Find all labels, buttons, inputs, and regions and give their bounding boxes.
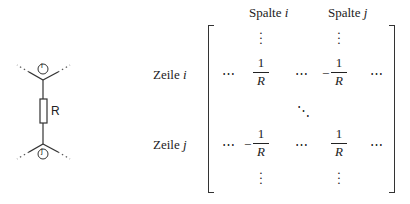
entry-ii: 1 R	[249, 56, 273, 88]
circuit-diagram	[0, 0, 140, 204]
node-top	[17, 64, 70, 80]
hdots-row-j-2: ⋯	[295, 137, 308, 153]
matrix-right-bracket	[389, 25, 395, 193]
hdots-row-j-1: ⋯	[222, 137, 235, 153]
entry-ij: 1 R	[327, 56, 351, 88]
vdots-top-col-i: ···	[256, 30, 266, 45]
diagonal-dots: ⋱	[297, 103, 310, 119]
node-bottom-label: j	[41, 146, 43, 155]
column-header-i: Spalte i	[249, 5, 288, 21]
vdots-top-col-j: ···	[334, 30, 344, 45]
vdots-bottom-col-j: ···	[334, 170, 344, 185]
column-header-j: Spalte j	[328, 5, 367, 21]
node-bottom	[17, 144, 70, 159]
node-top-label: i	[41, 61, 43, 70]
entry-jj: 1 R	[327, 127, 351, 159]
vdots-bottom-col-i: ···	[256, 170, 266, 185]
row-header-j: Zeile j	[153, 137, 187, 153]
row-header-i: Zeile i	[153, 67, 187, 83]
hdots-row-i-1: ⋯	[222, 66, 235, 82]
matrix-left-bracket	[208, 25, 214, 193]
resistor-symbol	[40, 99, 47, 123]
hdots-row-i-3: ⋯	[370, 66, 383, 82]
hdots-row-j-3: ⋯	[370, 137, 383, 153]
entry-ji: 1 R	[249, 127, 273, 159]
hdots-row-i-2: ⋯	[295, 66, 308, 82]
resistor-label: R	[51, 104, 60, 118]
